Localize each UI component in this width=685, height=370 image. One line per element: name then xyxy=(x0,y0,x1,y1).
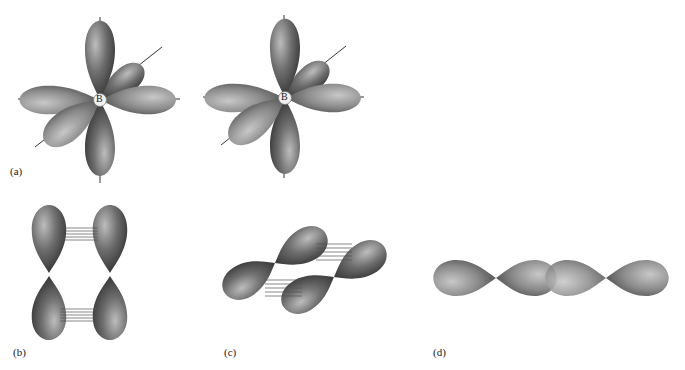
panel-c xyxy=(216,219,394,321)
orbital-figure xyxy=(0,0,685,370)
panel-d xyxy=(433,260,668,296)
panel-label-a: (a) xyxy=(10,165,22,177)
panel-b xyxy=(32,205,128,340)
panel-label-d: (d) xyxy=(433,346,446,358)
panel-label-b: (b) xyxy=(13,346,26,358)
overlap-lines xyxy=(60,228,98,321)
atom-label-b: B xyxy=(96,93,103,104)
panel-label-c: (c) xyxy=(224,346,236,358)
atom-label-b-2: B xyxy=(281,91,288,102)
